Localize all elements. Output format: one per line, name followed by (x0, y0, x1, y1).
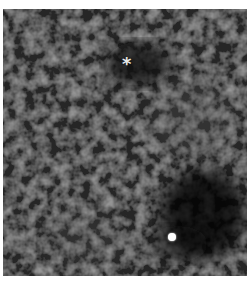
micrograph-panel: * (3, 9, 247, 276)
dot-marker (168, 233, 176, 241)
caption (0, 277, 251, 285)
asterisk-marker: * (122, 55, 131, 73)
micrograph-texture (3, 9, 247, 276)
